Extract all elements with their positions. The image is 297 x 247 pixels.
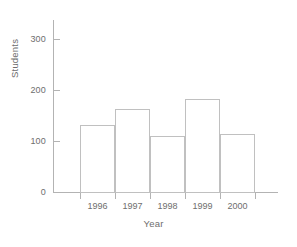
x-tick-label-1996: 1996 — [80, 201, 115, 211]
x-tick-label-1999: 1999 — [185, 201, 220, 211]
y-tick-label-0: 0 — [41, 188, 46, 197]
x-tick-mark-5 — [255, 193, 256, 199]
y-tick-label-200: 200 — [30, 86, 46, 95]
x-tick-label-1997: 1997 — [115, 201, 150, 211]
bar-chart: 0 100 200 300 1996 1997 1998 1999 2000 S… — [0, 0, 297, 247]
x-tick-label-1998: 1998 — [150, 201, 185, 211]
x-tick-mark-1 — [115, 193, 116, 199]
bar-1997 — [115, 109, 150, 193]
x-tick-mark-0 — [80, 193, 81, 199]
y-tick-label-100: 100 — [30, 137, 46, 146]
x-tick-mark-2 — [150, 193, 151, 199]
x-axis-title-text: Year — [144, 218, 164, 229]
bar-1996 — [80, 125, 115, 193]
bar-1999 — [185, 99, 220, 193]
bar-1998 — [150, 136, 185, 193]
x-tick-mark-3 — [185, 193, 186, 199]
x-tick-mark-4 — [220, 193, 221, 199]
x-axis-title: Year — [0, 218, 297, 229]
x-tick-label-2000: 2000 — [220, 201, 255, 211]
y-tick-label-300: 300 — [30, 35, 46, 44]
plot-area — [53, 20, 278, 193]
y-axis-title: Students — [9, 39, 20, 78]
bar-2000 — [220, 134, 255, 193]
